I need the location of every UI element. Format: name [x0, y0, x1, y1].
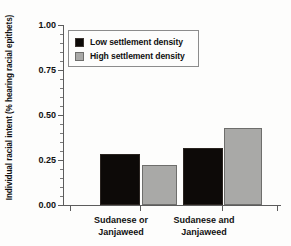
y-tick-label-075: 0.75: [32, 66, 56, 75]
legend-label-high-settlement-density: High settlement density: [90, 51, 185, 61]
x-category-label-2-line1: Sudanese and: [170, 215, 238, 227]
bar-chart-figure: Individual racial intent (% hearing raci…: [0, 0, 291, 246]
x-tick-group-2: [222, 206, 223, 211]
x-axis-spine: [63, 205, 281, 206]
chart-legend: Low settlement density High settlement d…: [68, 30, 199, 67]
y-tick-label-000: 0.00: [32, 201, 56, 210]
y-axis-label: Individual racial intent (% hearing raci…: [0, 0, 20, 215]
legend-swatch-black-icon: [75, 38, 84, 47]
bar-high-density-sudanese-and-janjaweed: [224, 128, 262, 205]
legend-label-low-settlement-density: Low settlement density: [90, 37, 183, 47]
x-category-label-2-line2: Janjaweed: [170, 227, 238, 239]
legend-item-high-settlement-density: High settlement density: [75, 49, 193, 63]
y-axis-tick-labels: 1.00 0.75 0.50 0.25 0.00: [30, 0, 56, 246]
bar-high-density-sudanese-or-janjaweed: [142, 165, 177, 206]
bar-low-density-sudanese-and-janjaweed: [183, 148, 223, 205]
x-category-label-1: Sudanese or Janjaweed: [90, 215, 152, 238]
legend-swatch-gray-icon: [75, 52, 84, 61]
bar-low-density-sudanese-or-janjaweed: [100, 154, 140, 205]
y-tick-label-025: 0.25: [32, 156, 56, 165]
x-category-label-2: Sudanese and Janjaweed: [170, 215, 238, 238]
x-tick-group-1: [140, 206, 141, 211]
legend-item-low-settlement-density: Low settlement density: [75, 35, 193, 49]
x-category-label-1-line2: Janjaweed: [90, 227, 152, 239]
x-tick-right: [277, 206, 278, 211]
y-tick-label-100: 1.00: [32, 21, 56, 30]
x-category-label-1-line1: Sudanese or: [90, 215, 152, 227]
y-axis-label-text: Individual racial intent (% hearing raci…: [6, 15, 15, 200]
y-tick-label-050: 0.50: [32, 111, 56, 120]
x-tick-left: [70, 206, 71, 211]
